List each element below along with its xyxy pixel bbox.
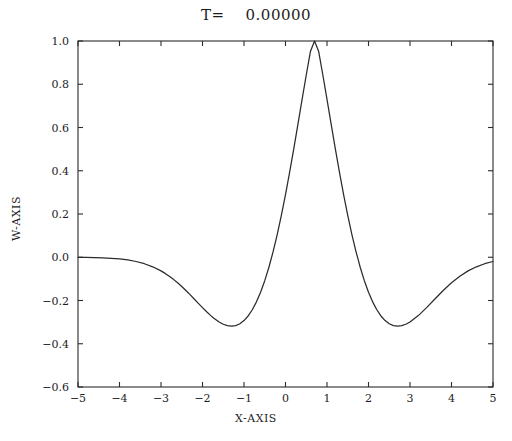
y-tick-label: 0.8: [52, 78, 70, 91]
x-tick-label: 1: [324, 392, 331, 405]
data-curve: [78, 41, 493, 326]
x-tick-label: 5: [490, 392, 497, 405]
y-tick-label: 1.0: [52, 35, 70, 48]
x-tick-label: −1: [236, 392, 252, 405]
y-tick-label: 0.2: [52, 208, 70, 221]
plot-svg: −5−4−3−2−1012345−0.6−0.4−0.20.00.20.40.6…: [0, 0, 512, 441]
x-tick-label: −2: [194, 392, 210, 405]
y-tick-label: −0.4: [42, 338, 69, 351]
x-tick-label: 0: [282, 392, 289, 405]
y-tick-label: −0.2: [42, 295, 69, 308]
plot-frame: [78, 41, 493, 387]
y-tick-label: −0.6: [42, 381, 69, 394]
x-axis-label: X-AXIS: [0, 412, 512, 425]
x-tick-label: −4: [111, 392, 127, 405]
x-tick-label: 2: [365, 392, 372, 405]
y-tick-label: 0.0: [52, 251, 70, 264]
chart-figure: T= 0.00000 −5−4−3−2−1012345−0.6−0.4−0.20…: [0, 0, 512, 441]
y-axis-label: W-AXIS: [10, 189, 23, 249]
x-tick-label: 4: [448, 392, 455, 405]
x-tick-label: 3: [407, 392, 414, 405]
y-tick-label: 0.6: [52, 122, 70, 135]
x-tick-label: −3: [153, 392, 169, 405]
x-tick-label: −5: [70, 392, 86, 405]
y-tick-label: 0.4: [52, 165, 70, 178]
